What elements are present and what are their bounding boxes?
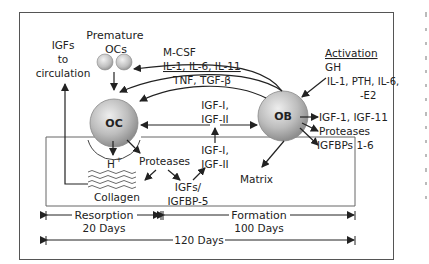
premature-oc-sphere-1: [97, 54, 113, 70]
ob-label: OB: [274, 110, 292, 123]
cropped-text-column: [425, 12, 427, 199]
igf-mid-line1: IGF-I,: [201, 144, 229, 156]
arrow-proteases-to-collagen: [145, 170, 156, 180]
total-days-label: 120 Days: [174, 234, 224, 246]
circulation-label: circulation: [36, 67, 91, 79]
ob-output-igf: IGF-1, IGF-11: [319, 111, 388, 123]
mcsf-label: M-CSF: [163, 46, 196, 58]
ob-output-proteases: Proteases: [319, 125, 370, 137]
matrix-label: Matrix: [240, 173, 273, 185]
activation-factors-line1: IL-1, PTH, IL-6,: [327, 76, 399, 87]
resorption-days-label: 20 Days: [83, 222, 126, 234]
activation-gh: GH: [325, 61, 341, 73]
activation-factors-line2: -E2: [360, 90, 376, 101]
igf-top-line1: IGF-I,: [201, 99, 229, 111]
igfs-igfbp5-line2: IGFBP-5: [167, 195, 208, 207]
arrow-ob-to-matrix: [262, 141, 284, 167]
collagen-waves: [88, 171, 136, 189]
collagen-label: Collagen: [94, 191, 140, 203]
oc-label: OC: [105, 117, 122, 130]
igfs-label: IGFs: [52, 39, 75, 51]
premature-oc-sphere-2: [116, 54, 132, 70]
arrow-activation-to-ob: [302, 78, 326, 97]
h-plus-label: H: [107, 158, 115, 170]
formation-label: Formation: [231, 209, 287, 222]
h-plus-superscript: +: [116, 156, 122, 164]
formation-days-label: 100 Days: [234, 222, 284, 234]
arrow-proteases-to-igfs: [168, 170, 180, 180]
igf-mid-line2: IGF-II: [201, 158, 228, 170]
resorption-label: Resorption: [75, 209, 134, 222]
arrow-igfs-to-igf-mid: [193, 168, 205, 180]
bone-remodeling-diagram: Premature OCs OC OB IGFs to circulation …: [0, 0, 429, 264]
igf-top-line2: IGF-II: [201, 113, 228, 125]
oc-proteases-label: Proteases: [139, 155, 190, 167]
premature-label: Premature: [86, 29, 144, 42]
arrow-to-circulation: [65, 84, 88, 184]
to-label: to: [58, 53, 69, 65]
ob-output-igfbps: IGFBPs 1-6: [317, 139, 374, 151]
activation-title: Activation: [325, 47, 378, 59]
igfs-igfbp5-line1: IGFs/: [175, 181, 202, 193]
ocs-label: OCs: [105, 43, 127, 56]
